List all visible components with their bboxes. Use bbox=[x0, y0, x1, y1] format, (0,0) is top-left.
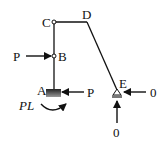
moment-arrow-a-icon bbox=[41, 104, 66, 110]
reaction-label-e-horizontal: 0 bbox=[150, 85, 157, 100]
node-label-e: E bbox=[119, 76, 127, 91]
moment-label-a: PL bbox=[18, 98, 34, 113]
frame-diagram: C D B A E P P PL 0 0 bbox=[0, 0, 165, 143]
load-label-a: P bbox=[87, 85, 94, 100]
hinge-c-icon bbox=[52, 20, 56, 24]
hinge-b-icon bbox=[52, 54, 56, 58]
node-label-a: A bbox=[37, 83, 47, 98]
member-de bbox=[87, 22, 117, 90]
fixed-support-a-icon bbox=[46, 89, 61, 97]
node-label-b: B bbox=[58, 49, 67, 64]
node-label-d: D bbox=[82, 7, 91, 22]
load-label-b: P bbox=[13, 49, 20, 64]
node-label-c: C bbox=[42, 15, 51, 30]
reaction-label-e-vertical: 0 bbox=[113, 125, 120, 140]
